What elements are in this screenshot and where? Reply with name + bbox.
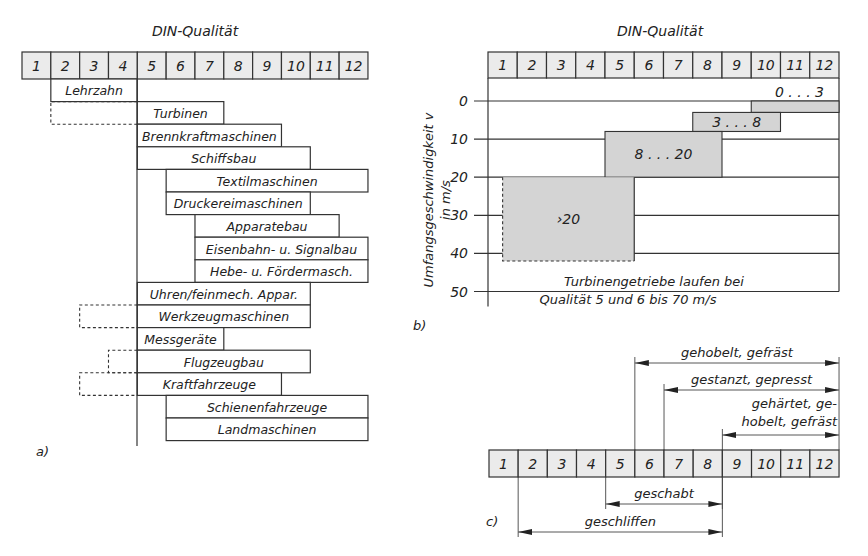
application-label: Apparatebau [226,219,308,234]
quality-number: 7 [674,57,683,73]
method-label: gestanzt, gepresst [691,372,813,387]
quality-number: 6 [644,57,653,73]
quality-number: 4 [118,58,127,74]
panel-b-note-line2: Qualität 5 und 6 bis 70 m/s [540,292,717,307]
panel-a-title: DIN-Qualität [152,23,239,39]
y-tick-label: 0 [459,93,468,109]
quality-number: 3 [557,456,566,472]
quality-number: 4 [586,57,595,73]
dashed-extension [80,305,138,328]
application-label: Messgeräte [144,332,217,347]
panel-c-manufacturing-methods: 123456789101112 gehobelt, gefrästgestanz… [486,345,839,537]
quality-number: 1 [498,57,507,73]
application-label: Turbinen [153,106,207,121]
dashed-extension [51,102,137,125]
method-label: geschabt [634,486,695,501]
quality-number: 8 [234,58,243,74]
quality-number: 7 [205,58,214,74]
quality-number: 12 [816,456,834,472]
y-tick-label: 40 [450,245,468,261]
quality-number: 11 [786,456,804,472]
application-label: Kraftfahrzeuge [163,377,257,392]
quality-number: 10 [287,58,305,74]
method-label: gehobelt, gefräst [681,345,794,360]
speed-range-label: 0 . . . 3 [775,84,824,100]
application-label: Uhren/feinmech. Appar. [150,287,298,302]
panel-c-label: c) [486,514,498,529]
panel-b-title: DIN-Qualität [617,23,704,39]
speed-range-label: ›20 [557,211,581,227]
quality-number: 2 [61,58,70,74]
quality-number: 1 [32,58,41,74]
application-label: Werkzeugmaschinen [158,309,289,324]
quality-number: 6 [645,456,654,472]
y-tick-label: 50 [450,284,468,300]
quality-number: 5 [616,456,625,472]
y-axis-label-line2: in m/s [438,180,453,220]
application-label: Flugzeugbau [184,355,264,370]
quality-number: 9 [732,57,741,73]
quality-number: 5 [147,58,156,74]
application-label: Lehrzahn [65,83,123,98]
quality-number: 12 [815,57,833,73]
application-label: Textilmaschinen [216,174,317,189]
quality-number: 11 [316,58,334,74]
quality-number: 9 [732,456,741,472]
quality-number: 8 [703,456,712,472]
method-label-line2: hobelt, gefräst [742,414,838,429]
panel-b-label: b) [413,318,426,333]
application-label: Schiffsbau [191,151,256,166]
quality-number: 8 [703,57,712,73]
dashed-extension [108,350,137,373]
quality-number: 11 [786,57,804,73]
quality-number: 7 [674,456,683,472]
quality-number: 10 [757,57,775,73]
panel-a-label: a) [36,444,49,459]
panel-a-quality-header: 123456789101112 [22,52,368,79]
quality-number: 12 [345,58,363,74]
panel-b-ranges: 0 . . . 33 . . . 88 . . . 20›20 [503,84,839,261]
panel-b-quality-header: 123456789101112 [488,52,839,78]
speed-range-label: 3 . . . 8 [712,114,761,130]
din-quality-diagram: DIN-Qualität 123456789101112 LehrzahnTur… [0,0,868,556]
y-tick-label: 10 [450,131,468,147]
quality-number: 2 [528,456,537,472]
quality-number: 5 [615,57,624,73]
panel-a-bars: LehrzahnTurbinenBrennkraftmaschinenSchif… [51,79,368,441]
panel-b-y-axis-label: Umfangsgeschwindigkeit v in m/s [421,112,453,287]
y-axis-label-line1: Umfangsgeschwindigkeit v [421,112,436,287]
application-label: Schienenfahrzeuge [207,400,328,415]
method-label-line1: gehärtet, ge- [752,396,838,411]
quality-number: 2 [527,57,536,73]
application-label: Brennkraftmaschinen [142,129,277,144]
application-label: Druckereimaschinen [174,196,303,211]
application-label: Hebe- u. Fördermasch. [210,264,353,279]
dashed-extension [80,373,138,396]
quality-number: 10 [757,456,775,472]
application-label: Eisenbahn- u. Signalbau [206,242,357,257]
quality-number: 3 [557,57,566,73]
speed-range-box [751,101,839,112]
quality-number: 9 [263,58,272,74]
method-label: geschliffen [585,514,656,529]
panel-c-quality-header: 123456789101112 [489,450,839,477]
quality-number: 6 [176,58,185,74]
panel-b-speed-ranges: DIN-Qualität 123456789101112 01020304050… [413,23,839,333]
quality-number: 4 [587,456,596,472]
quality-number: 1 [499,456,508,472]
panel-c-dimension-lines: gehobelt, gefrästgestanzt, gepresstgehär… [518,345,839,537]
quality-number: 3 [90,58,99,74]
panel-b-note-line1: Turbinengetriebe laufen bei [564,274,744,289]
speed-range-label: 8 . . . 20 [635,146,693,162]
panel-a-application-areas: DIN-Qualität 123456789101112 LehrzahnTur… [22,23,368,459]
application-label: Landmaschinen [218,422,317,437]
